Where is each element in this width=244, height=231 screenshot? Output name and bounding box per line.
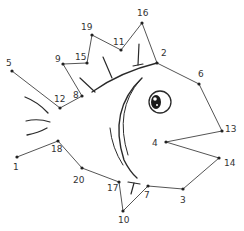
dot-number-label: 5: [6, 58, 12, 68]
dot-6[interactable]: 6: [197, 69, 204, 86]
dot-number-label: 2: [161, 48, 167, 58]
dot-1[interactable]: 1: [13, 155, 19, 172]
dot-number-label: 13: [225, 124, 236, 134]
dot-7[interactable]: 7: [144, 184, 150, 200]
dot-18[interactable]: 18: [51, 139, 63, 154]
dot-number-label: 3: [180, 195, 186, 205]
fish-drawing: [25, 44, 171, 194]
connector-line: [199, 84, 222, 131]
eye-highlight: [153, 97, 157, 101]
dot-marker[interactable]: [80, 166, 83, 169]
crest-spine-1: [80, 78, 95, 92]
dot-2[interactable]: 2: [155, 48, 166, 65]
dot-marker[interactable]: [90, 33, 93, 36]
crest-spine-3: [138, 44, 139, 65]
dot-number-label: 20: [73, 175, 85, 185]
dot-number-label: 19: [81, 22, 93, 32]
crest-spine-2: [103, 57, 112, 78]
dot-marker[interactable]: [15, 155, 18, 158]
dot-to-dot-canvas: 5128915191116261341437101720181: [0, 0, 244, 231]
connector-line: [148, 186, 183, 189]
dot-11[interactable]: 11: [113, 37, 124, 52]
connector-line: [119, 182, 123, 211]
dot-number-label: 8: [73, 90, 79, 100]
dot-marker[interactable]: [181, 187, 184, 190]
dot-number-label: 14: [224, 158, 236, 168]
eye-pupil: [151, 95, 161, 109]
dot-marker[interactable]: [164, 140, 167, 143]
dot-4[interactable]: 4: [152, 138, 168, 148]
dot-number-label: 18: [51, 144, 63, 154]
fish-back-curve: [92, 63, 157, 92]
connector-line: [63, 63, 87, 64]
dot-number-label: 4: [152, 138, 158, 148]
dot-14[interactable]: 14: [217, 156, 235, 168]
tail-mark-2: [26, 120, 50, 122]
dot-8[interactable]: 8: [73, 90, 84, 100]
dot-number-label: 12: [54, 94, 65, 104]
dot-12[interactable]: 12: [54, 94, 65, 110]
eye-highlight-small: [156, 104, 158, 106]
dot-9[interactable]: 9: [55, 54, 65, 66]
dot-marker[interactable]: [197, 82, 200, 85]
dot-13[interactable]: 13: [220, 124, 236, 134]
gill-arc-inner: [123, 80, 140, 155]
dot-3[interactable]: 3: [180, 187, 186, 205]
dot-marker[interactable]: [61, 62, 64, 65]
dot-marker[interactable]: [58, 106, 61, 109]
dot-5[interactable]: 5: [6, 58, 14, 73]
dot-marker[interactable]: [146, 184, 149, 187]
dot-marker[interactable]: [217, 156, 220, 159]
dot-marker[interactable]: [220, 129, 223, 132]
belly-fin-stem: [131, 183, 134, 194]
dot-marker[interactable]: [155, 61, 158, 64]
tail-mark-3: [27, 128, 47, 135]
connector-line: [157, 63, 199, 84]
dot-number-label: 15: [75, 52, 86, 62]
dot-marker[interactable]: [119, 48, 122, 51]
dot-number-label: 1: [13, 162, 19, 172]
connector-line: [142, 23, 157, 63]
connector-line: [166, 131, 222, 142]
dot-marker[interactable]: [140, 21, 143, 24]
dot-15[interactable]: 15: [75, 52, 89, 65]
dot-19[interactable]: 19: [81, 22, 94, 37]
connector-line: [166, 142, 219, 158]
dot-number-label: 11: [113, 37, 124, 47]
dot-number-label: 17: [107, 183, 118, 193]
connector-line: [82, 168, 119, 182]
connector-line: [87, 35, 92, 63]
dot-marker[interactable]: [56, 139, 59, 142]
connector-line: [183, 158, 219, 189]
dot-10[interactable]: 10: [118, 209, 130, 225]
dot-16[interactable]: 16: [137, 8, 149, 25]
dot-marker[interactable]: [80, 94, 83, 97]
dot-marker[interactable]: [121, 209, 124, 212]
numbered-dots: 5128915191116261341437101720181: [6, 8, 236, 225]
dot-number-label: 16: [137, 8, 149, 18]
dot-20[interactable]: 20: [73, 166, 85, 185]
dot-17[interactable]: 17: [107, 180, 121, 193]
dot-number-label: 6: [198, 69, 204, 79]
dot-number-label: 9: [55, 54, 61, 64]
dot-marker[interactable]: [10, 69, 13, 72]
tail-mark-1: [25, 97, 48, 113]
dot-number-label: 10: [118, 215, 130, 225]
dot-number-label: 7: [144, 190, 150, 200]
